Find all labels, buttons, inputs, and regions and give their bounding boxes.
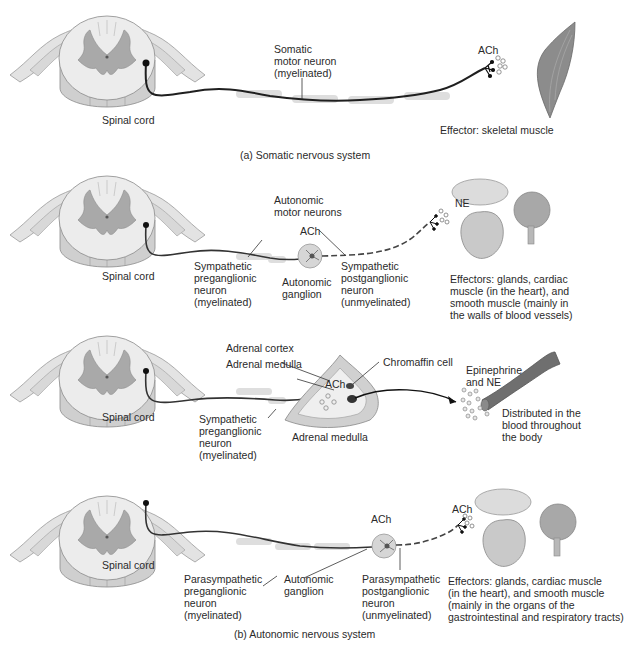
myelin-sheath-a: [236, 90, 450, 104]
epinephrine-ne-label: Epinephrine and NE: [466, 364, 522, 388]
effector-organs-b3: [475, 489, 576, 566]
caption-autonomic: (b) Autonomic nervous system: [234, 628, 375, 640]
axon-terminal-b1: [430, 215, 438, 231]
chromaffin-cell: [346, 383, 354, 389]
spinal-cord-label-b2: Spinal cord: [102, 411, 155, 423]
parasympathetic-preganglionic-label: Parasympathetic preganglionic neuron (my…: [184, 573, 262, 621]
diagram-canvas: [0, 0, 640, 651]
somatic-motor-neuron-label: Somatic motor neuron (myelinated): [274, 43, 336, 79]
effector-organs-b1: [452, 179, 550, 258]
axon-terminal-b3: [458, 518, 466, 534]
bladder-icon: [514, 192, 550, 228]
effectors-label-b1: Effectors: glands, cardiac muscle (in th…: [450, 273, 573, 321]
ach-label-b3-ganglion: ACh: [371, 513, 391, 525]
parasympathetic-postganglionic-axon: [396, 525, 458, 545]
ach-vesicles-a: [496, 56, 507, 74]
sympathetic-preganglionic-label: Sympathetic preganglionic neuron (myelin…: [194, 260, 256, 308]
adrenal-medulla-label-bottom: Adrenal medulla: [292, 431, 368, 443]
ach-label-b1: ACh: [300, 225, 320, 237]
skeletal-muscle: [537, 22, 575, 118]
sympathetic-postganglionic-axon: [322, 222, 430, 256]
autonomic-ganglion-label-b3: Autonomic ganglion: [284, 573, 334, 597]
ach-label-b2: ACh: [325, 378, 345, 390]
ach-label-b3-effector: ACh: [452, 503, 472, 515]
sympathetic-postganglionic-label: Sympathetic postganglionic neuron (unmye…: [341, 260, 410, 308]
heart-icon: [461, 212, 503, 259]
effector-label-a: Effector: skeletal muscle: [440, 124, 554, 136]
chromaffin-cell-label: Chromaffin cell: [383, 356, 453, 368]
autonomic-ganglion-b3: [372, 534, 396, 558]
caption-somatic: (a) Somatic nervous system: [240, 149, 370, 161]
heart-icon: [483, 520, 525, 567]
bladder-icon: [540, 504, 576, 540]
spinal-cord-label-b1: Spinal cord: [102, 270, 155, 282]
ne-label-b1: NE: [455, 197, 470, 209]
gland-icon: [475, 489, 531, 515]
sympathetic-preganglionic-label-adrenal: Sympathetic preganglionic neuron (myelin…: [199, 413, 261, 461]
sympathetic-preganglionic-axon: [146, 225, 300, 260]
neuron-cell-body-a: [143, 60, 150, 67]
adrenal-cortex-label: Adrenal cortex: [226, 342, 294, 354]
axon-terminal-a: [485, 61, 495, 78]
spinal-cord-b3: [10, 496, 205, 587]
distributed-in-blood-label: Distributed in the blood throughout the …: [502, 407, 581, 443]
spinal-cord-label-a: Spinal cord: [102, 114, 155, 126]
effectors-label-b3: Effectors: glands, cardiac muscle (in th…: [448, 575, 624, 623]
spinal-cord-label-b3: Spinal cord: [102, 559, 155, 571]
autonomic-ganglion-label-b1: Autonomic ganglion: [282, 276, 332, 300]
myelin-sheath-b2: [236, 388, 286, 404]
ach-label-a: ACh: [478, 44, 498, 56]
adrenal-medulla-label-top: Adrenal medulla: [226, 358, 302, 370]
autonomic-motor-neurons-label: Autonomic motor neurons: [274, 194, 342, 218]
parasympathetic-postganglionic-label: Parasympathetic postganglionic neuron (u…: [362, 573, 440, 621]
